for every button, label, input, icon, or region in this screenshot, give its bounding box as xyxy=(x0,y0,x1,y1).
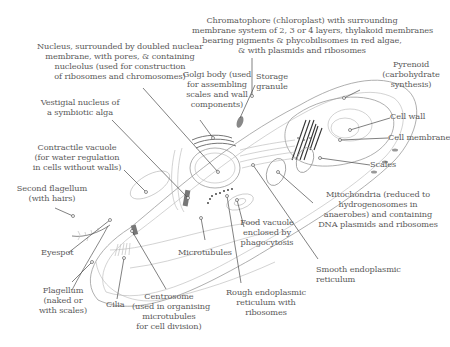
label-chromatophore: Chromatophore (chloroplast) with surroun… xyxy=(192,16,412,56)
label-mitochondria: Mitochondria (reduced to hydrogenosomes … xyxy=(318,190,438,230)
label-centrosome: Centrosome (used in organising microtubu… xyxy=(132,292,206,332)
label-cell-wall: Cell wall xyxy=(390,112,425,122)
label-microtubules: Microtubules xyxy=(178,248,232,258)
label-scales: Scales xyxy=(370,160,396,170)
label-flagellum: Flagellum (naked or with scales) xyxy=(30,286,96,316)
label-golgi-body: Golgi body (used for assembling scales a… xyxy=(180,70,254,110)
label-eyespot: Eyespot xyxy=(41,248,73,258)
label-rough-er: Rough endoplasmic reticulum with ribosom… xyxy=(226,288,306,318)
label-smooth-er: Smooth endoplasmic reticulum xyxy=(316,265,401,285)
label-vestigial-nucleus: Vestigial nucleus of a symbiotic alga xyxy=(30,98,130,118)
label-cell-membrane: Cell membrane xyxy=(388,133,450,143)
label-pyrenoid: Pyrenoid (carbohydrate synthesis) xyxy=(376,60,446,90)
label-cilia: Cilia xyxy=(106,300,125,310)
label-food-vacuole: Food vacuole enclosed by phagocytosis xyxy=(232,218,302,248)
label-contractile-vacuole: Contractile vacuole (for water regulatio… xyxy=(32,143,122,173)
label-second-flagellum: Second flagellum (with hairs) xyxy=(10,184,94,204)
label-storage-granule: Storage granule xyxy=(250,72,294,92)
